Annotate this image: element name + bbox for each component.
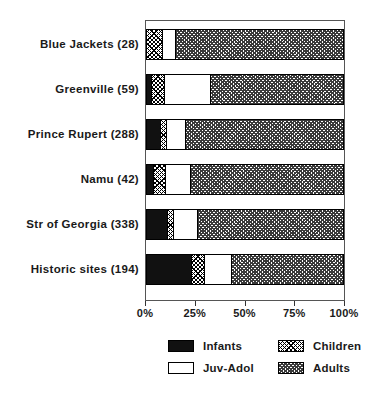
bar-row <box>146 209 344 240</box>
legend-entry-children[interactable]: Children <box>278 340 361 352</box>
legend-entry-adults[interactable]: Adults <box>278 362 350 374</box>
category-label: Greenville (59) <box>0 83 139 95</box>
legend-label: Infants <box>203 340 242 352</box>
bar-row <box>146 29 344 60</box>
legend-swatch <box>278 362 304 374</box>
bar-segment-juv-adol <box>166 119 185 150</box>
bar-row <box>146 74 344 105</box>
legend-entry-juv-adol[interactable]: Juv-Adol <box>168 362 254 374</box>
bar-row <box>146 164 344 195</box>
bar-segment-juv-adol <box>162 29 175 60</box>
bar-segment-adults <box>190 164 344 195</box>
category-label: Prince Rupert (288) <box>0 128 139 140</box>
bar-row <box>146 119 344 150</box>
bar-segment-juv-adol <box>173 209 198 240</box>
bar-segment-children <box>146 29 162 60</box>
bar-segment-adults <box>197 209 344 240</box>
category-axis-labels: Blue Jackets (28)Greenville (59)Prince R… <box>0 20 139 300</box>
bar-segment-adults <box>231 254 344 285</box>
chart-legend: InfantsChildrenJuv-AdolAdults <box>168 340 368 384</box>
x-tick-mark <box>344 301 345 306</box>
bar-segment-children <box>151 74 164 105</box>
legend-entry-infants[interactable]: Infants <box>168 340 242 352</box>
x-tick-label: 0% <box>137 307 153 319</box>
legend-label: Juv-Adol <box>203 362 254 374</box>
legend-label: Children <box>313 340 361 352</box>
bar-segment-children <box>153 164 165 195</box>
bar-segment-infants <box>146 254 191 285</box>
x-tick-label: 75% <box>283 307 306 319</box>
bar-segment-juv-adol <box>204 254 231 285</box>
legend-swatch <box>278 340 304 352</box>
x-tick-mark <box>245 301 246 306</box>
plot-area <box>145 20 345 301</box>
bar-segment-juv-adol <box>165 164 190 195</box>
bar-segment-adults <box>175 29 344 60</box>
x-tick-label: 50% <box>233 307 256 319</box>
legend-label: Adults <box>313 362 350 374</box>
legend-swatch <box>168 362 194 374</box>
bar-segment-infants <box>146 209 167 240</box>
legend-swatch <box>168 340 194 352</box>
bar-row <box>146 254 344 285</box>
category-label: Str of Georgia (338) <box>0 218 139 230</box>
bar-segment-infants <box>146 164 153 195</box>
bar-segment-adults <box>185 119 344 150</box>
bar-segment-children <box>191 254 205 285</box>
x-tick-label: 100% <box>330 307 359 319</box>
x-tick-mark <box>294 301 295 306</box>
x-tick-mark <box>195 301 196 306</box>
x-tick-mark <box>145 301 146 306</box>
bar-segment-adults <box>210 74 344 105</box>
x-axis-tick-labels: 0%25%50%75%100% <box>145 307 345 323</box>
bar-segment-infants <box>146 119 160 150</box>
stacked-bar-chart: Blue Jackets (28)Greenville (59)Prince R… <box>0 0 382 394</box>
x-tick-label: 25% <box>183 307 206 319</box>
category-label: Blue Jackets (28) <box>0 38 139 50</box>
category-label: Namu (42) <box>0 173 139 185</box>
bar-segment-juv-adol <box>164 74 211 105</box>
category-label: Historic sites (194) <box>0 263 139 275</box>
